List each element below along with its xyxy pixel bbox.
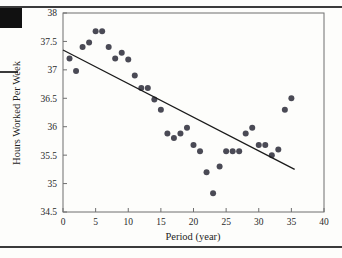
data-point (171, 135, 177, 141)
data-point (184, 125, 190, 131)
data-point (67, 55, 73, 61)
data-point (119, 50, 125, 56)
x-tick-label: 15 (156, 217, 166, 227)
y-tick-label: 37 (48, 65, 58, 75)
data-point (106, 44, 112, 50)
data-point (132, 73, 138, 79)
y-tick-label: 36 (48, 122, 58, 132)
data-point (256, 142, 262, 148)
plot-svg: 0510152025303540 34.53535.53636.53737.53… (0, 8, 342, 244)
y-tick-label: 37.5 (40, 37, 57, 47)
x-tick-label: 0 (61, 217, 66, 227)
data-point (210, 190, 216, 196)
data-point (191, 142, 197, 148)
data-point (93, 28, 99, 34)
data-point (275, 146, 281, 152)
x-tick-label: 35 (287, 217, 297, 227)
data-point (249, 125, 255, 131)
bottom-rule (0, 246, 342, 248)
scatter-chart: 0510152025303540 34.53535.53636.53737.53… (0, 8, 342, 244)
x-axis-title: Period (year) (165, 231, 221, 243)
data-point (99, 28, 105, 34)
x-tick-label: 5 (93, 217, 98, 227)
data-point (197, 148, 203, 154)
data-point (112, 55, 118, 61)
data-point (145, 85, 151, 91)
x-tick-label: 30 (254, 217, 264, 227)
data-point (243, 131, 249, 137)
data-point (223, 148, 229, 154)
data-point (217, 164, 223, 170)
x-tick-label: 25 (221, 217, 231, 227)
x-tick-label: 40 (319, 217, 329, 227)
x-tick-label: 10 (124, 217, 134, 227)
data-point (177, 131, 183, 137)
y-axis-title: Hours Worked Per Week (11, 60, 22, 165)
x-tick-label: 20 (189, 217, 199, 227)
data-point (73, 68, 79, 74)
data-point (262, 142, 268, 148)
data-point (125, 57, 131, 63)
y-tick-label: 35 (48, 179, 58, 189)
x-axis-ticks: 0510152025303540 (61, 208, 329, 227)
figure-page: 0510152025303540 34.53535.53636.53737.53… (0, 0, 342, 258)
data-point (204, 169, 210, 175)
regression-line (63, 50, 295, 169)
y-tick-label: 35.5 (40, 151, 57, 161)
data-point (288, 95, 294, 101)
data-point (158, 107, 164, 113)
data-point (282, 107, 288, 113)
data-point (230, 148, 236, 154)
y-tick-label: 38 (48, 8, 58, 18)
data-point (80, 44, 86, 50)
data-points-layer (67, 28, 295, 196)
data-point (236, 148, 242, 154)
data-point (86, 40, 92, 46)
data-point (164, 131, 170, 137)
regression-line-layer (63, 50, 295, 169)
y-tick-label: 36.5 (40, 94, 57, 104)
y-tick-label: 34.5 (40, 207, 57, 217)
